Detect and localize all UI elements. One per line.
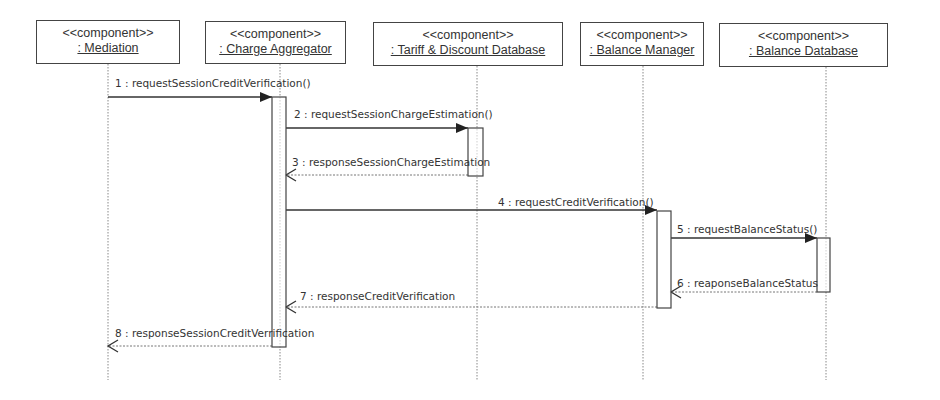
stereotype-label: <<component>> — [720, 29, 887, 44]
activation-bar-balance_db — [817, 238, 830, 292]
stereotype-label: <<component>> — [581, 28, 703, 43]
participant-balance-manager: <<component>> : Balance Manager — [580, 22, 704, 66]
filled-arrowhead-icon — [456, 123, 468, 133]
participant-name: : Tariff & Discount Database — [374, 43, 562, 58]
filled-arrowhead-icon — [260, 92, 272, 102]
participant-charge-aggregator: <<component>> : Charge Aggregator — [205, 21, 346, 64]
activation-bar-tariff_db — [468, 128, 483, 176]
stereotype-label: <<component>> — [37, 26, 179, 41]
activation-bar-balance_manager — [657, 211, 671, 308]
message-label-2: 2 : requestSessionChargeEstimation() — [294, 108, 493, 120]
participant-balance-database: <<component>> : Balance Database — [719, 23, 888, 67]
stereotype-label: <<component>> — [374, 28, 562, 43]
message-label-4: 4 : requestCreditVerification() — [498, 196, 654, 208]
participant-name: : Mediation — [37, 41, 179, 56]
participant-name: : Balance Manager — [581, 43, 703, 58]
activation-bar-charge_aggregator — [272, 97, 286, 347]
sequence-diagram: 1 : requestSessionCreditVerification()2 … — [0, 0, 940, 400]
message-label-6: 6 : reaponseBalanceStatus — [677, 277, 818, 289]
stereotype-label: <<component>> — [206, 27, 345, 42]
message-label-5: 5 : requestBalanceStatus() — [677, 223, 817, 235]
participant-name: : Balance Database — [720, 44, 887, 59]
participant-mediation: <<component>> : Mediation — [36, 20, 180, 64]
message-label-7: 7 : responseCreditVerification — [300, 290, 455, 302]
message-label-1: 1 : requestSessionCreditVerification() — [115, 77, 311, 89]
participant-name: : Charge Aggregator — [206, 42, 345, 57]
message-label-8: 8 : responseSessionCreditVerrification — [115, 327, 314, 339]
message-label-3: 3 : responseSessionChargeEstimation — [292, 156, 490, 168]
participant-tariff-discount-database: <<component>> : Tariff & Discount Databa… — [373, 22, 563, 66]
